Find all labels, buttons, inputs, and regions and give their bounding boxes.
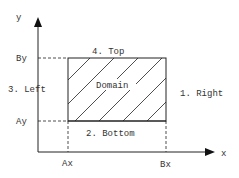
boundary-top-label: 4. Top	[92, 47, 124, 57]
tick-ay: Ay	[16, 117, 27, 127]
boundary-left-label: 3. Left	[8, 85, 46, 95]
x-axis-label: x	[221, 149, 226, 159]
y-axis-label: y	[16, 13, 22, 23]
tick-ax: Ax	[62, 159, 73, 169]
y-axis-arrow-icon	[34, 17, 42, 27]
domain-label: Domain	[96, 81, 128, 91]
boundary-right-label: 1. Right	[180, 89, 223, 99]
boundary-bottom-label: 2. Bottom	[86, 129, 135, 139]
domain-diagram: y x By Ay Ax Bx 4. Top 3. Left 1. Right …	[0, 0, 239, 178]
tick-by: By	[16, 54, 27, 64]
tick-bx: Bx	[160, 160, 171, 170]
x-axis-arrow-icon	[205, 148, 215, 156]
